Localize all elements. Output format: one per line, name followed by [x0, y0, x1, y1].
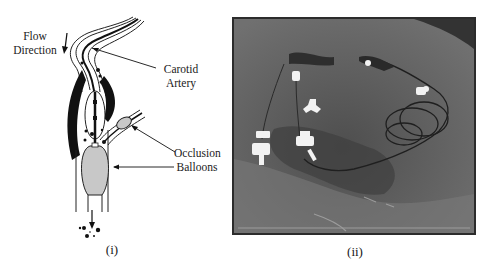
debris-particles — [79, 226, 100, 238]
carotid-artery-label: Carotid Artery — [157, 62, 205, 90]
panel-ii-caption: (ii) — [337, 244, 373, 260]
outflow-arrow-icon — [89, 222, 95, 229]
panel-ii-photograph — [232, 17, 476, 235]
panel-i-diagram: Flow Direction Carotid Artery Occlusion … — [0, 0, 220, 273]
panel-i-caption: (i) — [95, 242, 129, 258]
phantom-photo — [234, 19, 474, 233]
occlusion-balloons-label: Occlusion Balloons — [174, 146, 220, 174]
carotid-leader-line — [92, 48, 156, 68]
flow-direction-label: Flow Direction — [10, 29, 60, 57]
plaque-left — [67, 70, 86, 160]
small-balloon-leader-line — [132, 126, 175, 152]
occlusion-balloon-large — [82, 146, 109, 195]
